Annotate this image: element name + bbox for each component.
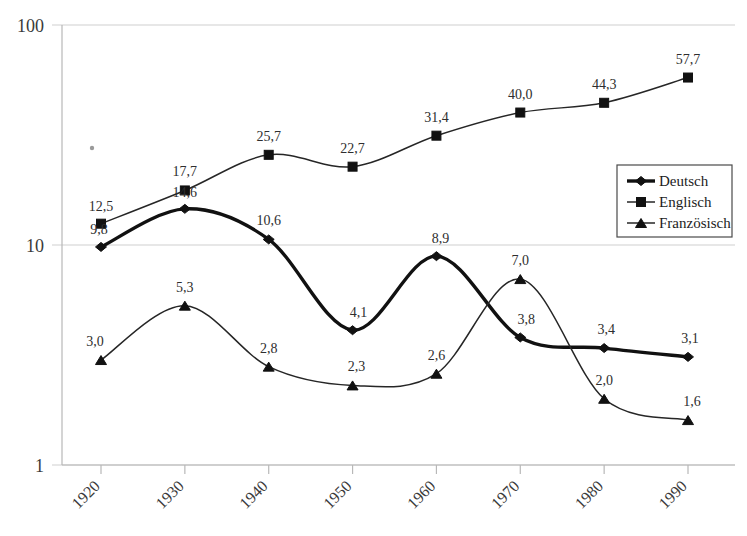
data-point-marker-deutsch-1950 xyxy=(347,326,358,335)
series-lines-group xyxy=(101,78,688,421)
data-label-französisch-1970: 7,0 xyxy=(512,253,530,268)
data-label-englisch-1940: 25,7 xyxy=(256,129,281,144)
data-label-englisch-1920: 12,5 xyxy=(89,199,114,214)
y-tick-label: 100 xyxy=(17,16,44,36)
data-label-englisch-1950: 22,7 xyxy=(340,141,365,156)
data-label-französisch-1920: 3,0 xyxy=(86,334,104,349)
data-point-marker-deutsch-1930 xyxy=(179,204,190,213)
x-axis-tick-labels: 19201930194019501960197019801990 xyxy=(68,477,690,512)
data-label-englisch-1980: 44,3 xyxy=(592,77,617,92)
data-label-deutsch-1970: 3,8 xyxy=(518,312,536,327)
x-tick-label-1960: 1960 xyxy=(404,477,439,512)
data-label-französisch-1930: 5,3 xyxy=(176,280,194,295)
data-point-marker-deutsch-1990 xyxy=(683,352,694,361)
data-label-französisch-1990: 1,6 xyxy=(683,394,701,409)
x-tick-label-1950: 1950 xyxy=(320,477,355,512)
data-label-englisch-1970: 40,0 xyxy=(508,87,533,102)
gridlines-group xyxy=(52,25,735,465)
data-label-deutsch-1980: 3,4 xyxy=(597,322,615,337)
data-label-deutsch-1940: 10,6 xyxy=(256,213,281,228)
legend-label-englisch[interactable]: Englisch xyxy=(659,194,712,210)
x-tick-label-1990: 1990 xyxy=(655,477,690,512)
data-label-deutsch-1990: 3,1 xyxy=(681,331,699,346)
data-point-marker-deutsch-1960 xyxy=(431,252,442,261)
x-tickmarks-group xyxy=(101,465,688,474)
x-tick-label-1940: 1940 xyxy=(236,477,271,512)
data-label-deutsch-1950: 4,1 xyxy=(350,305,368,320)
data-point-marker-englisch-1940 xyxy=(264,150,273,159)
x-tick-label-1920: 1920 xyxy=(68,477,103,512)
legend-label-französisch[interactable]: Französisch xyxy=(659,215,731,231)
y-tick-label: 10 xyxy=(26,236,44,256)
data-label-deutsch-1930: 14,6 xyxy=(173,185,198,200)
data-label-deutsch-1920: 9,8 xyxy=(90,222,108,237)
data-label-englisch-1960: 31,4 xyxy=(424,110,449,125)
data-point-marker-englisch-1950 xyxy=(348,162,357,171)
chart-container: 110100 19201930194019501960197019801990 … xyxy=(0,0,747,536)
line-chart-svg: 110100 19201930194019501960197019801990 … xyxy=(0,0,747,536)
x-tick-label-1980: 1980 xyxy=(572,477,607,512)
x-tick-label-1970: 1970 xyxy=(488,477,523,512)
data-point-marker-englisch-1980 xyxy=(600,98,609,107)
chart-legend[interactable]: DeutschEnglischFranzösisch xyxy=(617,165,732,237)
data-point-marker-englisch-1970 xyxy=(516,108,525,117)
data-label-englisch-1930: 17,7 xyxy=(173,164,198,179)
x-tick-label-1930: 1930 xyxy=(152,477,187,512)
data-label-französisch-1960: 2,6 xyxy=(428,348,446,363)
y-tick-label: 1 xyxy=(35,456,44,476)
data-point-marker-englisch-1990 xyxy=(684,73,693,82)
data-label-französisch-1950: 2,3 xyxy=(348,359,366,374)
scan-artifact-speck xyxy=(90,146,94,150)
data-label-englisch-1990: 57,7 xyxy=(676,52,701,67)
legend-square-marker-icon xyxy=(637,198,646,207)
legend-label-deutsch[interactable]: Deutsch xyxy=(659,173,709,189)
data-point-marker-deutsch-1980 xyxy=(599,344,610,353)
data-label-französisch-1980: 2,0 xyxy=(595,373,613,388)
data-label-deutsch-1960: 8,9 xyxy=(432,231,450,246)
data-point-marker-französisch-1940 xyxy=(263,362,274,371)
y-axis-tick-labels: 110100 xyxy=(17,16,44,476)
data-point-marker-englisch-1960 xyxy=(432,131,441,140)
data-label-französisch-1940: 2,8 xyxy=(260,341,278,356)
